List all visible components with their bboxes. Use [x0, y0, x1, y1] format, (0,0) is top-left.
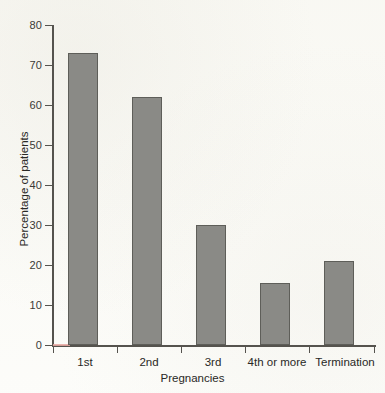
- y-tick-label-0: 0: [36, 340, 42, 351]
- x-tick-label-1st: 1st: [53, 356, 117, 369]
- x-tick-boundary-2: [181, 346, 182, 353]
- bar-termination: [324, 261, 354, 345]
- x-tick-label-2nd: 2nd: [117, 356, 181, 369]
- y-tick-label-40: 40: [30, 180, 42, 191]
- x-tick-boundary-3: [245, 346, 246, 353]
- bar-3rd: [196, 225, 226, 345]
- y-tick-label-80: 80: [30, 20, 42, 31]
- y-tick-label-20: 20: [30, 260, 42, 271]
- bar-1st: [68, 53, 98, 345]
- y-tick-label-10: 10: [30, 300, 42, 311]
- bar-chart-figure: 0 10 20 30 40 50 60 70 80 1st 2nd 3: [0, 0, 385, 393]
- plot-area: 0 10 20 30 40 50 60 70 80 1st 2nd 3: [0, 0, 385, 393]
- x-axis-line: [52, 345, 376, 347]
- x-tick-boundary-4: [309, 346, 310, 353]
- y-tick-50: [45, 145, 52, 146]
- x-tick-label-4th-or-more: 4th or more: [241, 356, 313, 369]
- y-axis-line: [52, 25, 54, 346]
- y-tick-label-60: 60: [30, 100, 42, 111]
- y-tick-40: [45, 185, 52, 186]
- bar-4th-or-more: [260, 283, 290, 345]
- y-tick-70: [45, 65, 52, 66]
- x-axis-title: Pregnancies: [0, 372, 385, 384]
- x-tick-boundary-1: [117, 346, 118, 353]
- bar-2nd: [132, 97, 162, 345]
- x-tick-boundary-0: [53, 346, 54, 353]
- y-tick-80: [45, 25, 52, 26]
- y-tick-0: [45, 345, 52, 346]
- y-tick-20: [45, 265, 52, 266]
- y-tick-60: [45, 105, 52, 106]
- y-axis-title: Percentage of patients: [18, 89, 30, 289]
- x-tick-label-termination: Termination: [307, 356, 383, 369]
- y-tick-10: [45, 305, 52, 306]
- x-tick-label-3rd: 3rd: [181, 356, 245, 369]
- x-tick-boundary-5: [374, 346, 375, 353]
- y-tick-label-70: 70: [30, 60, 42, 71]
- y-tick-30: [45, 225, 52, 226]
- y-tick-label-50: 50: [30, 140, 42, 151]
- y-tick-label-30: 30: [30, 220, 42, 231]
